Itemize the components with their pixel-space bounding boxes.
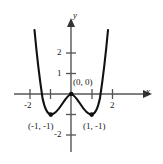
y-tick-label-neg2: -2 <box>54 130 62 139</box>
y-tick-label-pos1: 1 <box>57 69 62 78</box>
x-tick-label-neg2: -2 <box>24 101 32 110</box>
y-axis-label: y <box>73 11 77 20</box>
x-tick-label-pos2: 2 <box>110 101 115 110</box>
left-minimum-label: (-1, -1) <box>28 122 54 131</box>
left-minimum-dot <box>49 112 54 117</box>
graph-figure: x y -2 2 2 1 -2 (0, 0) (-1, -1) (1, -1) <box>0 0 163 164</box>
origin-point-dot <box>69 92 74 97</box>
y-tick-label-pos2: 2 <box>57 48 62 57</box>
right-minimum-label: (1, -1) <box>83 122 106 131</box>
x-axis-label: x <box>146 87 150 96</box>
origin-point-label: (0, 0) <box>73 78 93 87</box>
right-minimum-dot <box>89 112 94 117</box>
